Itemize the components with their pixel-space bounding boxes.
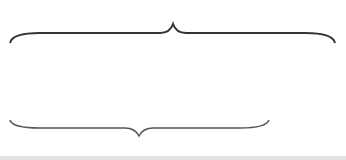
bottom-brace [10, 120, 269, 136]
braces [0, 0, 346, 160]
top-brace [10, 24, 335, 43]
bottom-band [0, 156, 346, 160]
